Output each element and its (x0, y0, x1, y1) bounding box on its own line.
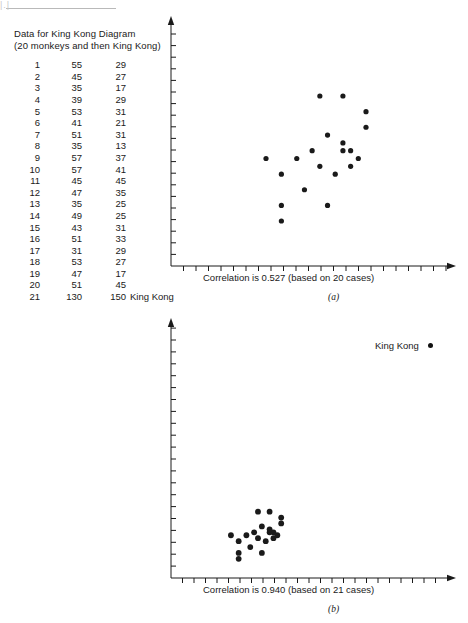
data-point (263, 538, 269, 544)
data-point (263, 156, 268, 161)
data-point (267, 509, 273, 515)
table-cell-idx: 2 (14, 71, 40, 83)
table-cell-idx: 8 (14, 140, 40, 152)
table-cell-idx: 17 (14, 245, 40, 257)
table-cell-idx: 1 (14, 59, 40, 71)
table-cell-x: 51 (40, 129, 82, 141)
scatter-chart-a (160, 14, 468, 276)
data-point (259, 524, 265, 530)
table-cell-y: 150 (82, 291, 126, 303)
data-point (340, 93, 345, 98)
data-point (325, 132, 330, 137)
table-cell-y: 13 (82, 140, 126, 152)
table-cell-y: 25 (82, 198, 126, 210)
scatter-points (228, 509, 284, 562)
chart-b-panel-letter: (b) (328, 604, 339, 614)
data-point (236, 538, 242, 544)
data-point (363, 125, 368, 130)
table-cell-idx: 5 (14, 106, 40, 118)
table-cell-idx: 6 (14, 117, 40, 129)
data-point (267, 526, 273, 532)
data-point (255, 509, 261, 515)
table-cell-y: 31 (82, 106, 126, 118)
table-cell-x: 35 (40, 82, 82, 94)
chart-a-caption: Correlation is 0.527 (based on 20 cases) (203, 272, 374, 284)
table-cell-x: 45 (40, 71, 82, 83)
table-cell-idx: 14 (14, 210, 40, 222)
page-edge-rule (6, 8, 116, 9)
table-cell-y: 21 (82, 117, 126, 129)
table-cell-y: 29 (82, 94, 126, 106)
table-cell-x: 53 (40, 106, 82, 118)
table-cell-idx: 7 (14, 129, 40, 141)
table-cell-x: 57 (40, 164, 82, 176)
data-point (251, 529, 257, 535)
table-cell-y: 33 (82, 233, 126, 245)
table-cell-idx: 13 (14, 198, 40, 210)
table-cell-y: 17 (82, 82, 126, 94)
data-point (363, 109, 368, 114)
table-cell-idx: 12 (14, 187, 40, 199)
data-point (325, 203, 330, 208)
data-point (278, 521, 284, 527)
table-cell-idx: 4 (14, 94, 40, 106)
table-cell-x: 49 (40, 210, 82, 222)
table-cell-idx: 18 (14, 256, 40, 268)
table-cell-idx: 19 (14, 268, 40, 280)
table-row: 205145 (14, 279, 189, 291)
data-point (317, 93, 322, 98)
data-point (279, 218, 284, 223)
table-cell-idx: 16 (14, 233, 40, 245)
table-row: 21130150King Kong (14, 291, 189, 303)
data-point (244, 532, 250, 538)
data-point (294, 156, 299, 161)
data-point (333, 172, 338, 177)
table-cell-x: 57 (40, 152, 82, 164)
table-cell-y: 17 (82, 268, 126, 280)
table-cell-x: 35 (40, 198, 82, 210)
data-point (348, 164, 353, 169)
table-cell-idx: 9 (14, 152, 40, 164)
table-cell-x: 43 (40, 222, 82, 234)
data-point (317, 164, 322, 169)
table-cell-y: 25 (82, 210, 126, 222)
table-cell-idx: 15 (14, 222, 40, 234)
table-cell-x: 130 (40, 291, 82, 303)
data-point (255, 535, 261, 541)
table-cell-x: 31 (40, 245, 82, 257)
table-cell-x: 41 (40, 117, 82, 129)
table-cell-x: 55 (40, 59, 82, 71)
data-point (348, 148, 353, 153)
data-point (228, 532, 234, 538)
table-cell-idx: 20 (14, 279, 40, 291)
table-cell-y: 29 (82, 59, 126, 71)
data-point (302, 187, 307, 192)
table-cell-idx: 11 (14, 175, 40, 187)
table-cell-y: 31 (82, 129, 126, 141)
table-cell-y: 37 (82, 152, 126, 164)
data-point (236, 550, 242, 556)
table-cell-x: 47 (40, 268, 82, 280)
data-point (247, 544, 253, 550)
table-cell-x: 39 (40, 94, 82, 106)
table-cell-x: 51 (40, 279, 82, 291)
data-point (279, 203, 284, 208)
table-cell-y: 45 (82, 279, 126, 291)
data-point (279, 172, 284, 177)
king-kong-point-marker (428, 343, 433, 348)
chart-b-caption: Correlation is 0.940 (based on 21 cases) (203, 584, 374, 596)
data-point (310, 148, 315, 153)
table-cell-x: 51 (40, 233, 82, 245)
scatter-points (263, 93, 368, 223)
data-point (340, 148, 345, 153)
table-cell-x: 45 (40, 175, 82, 187)
table-cell-y: 35 (82, 187, 126, 199)
table-cell-y: 41 (82, 164, 126, 176)
table-cell-idx: 21 (14, 291, 40, 303)
table-cell-y: 27 (82, 256, 126, 268)
scatter-chart-b (160, 318, 468, 590)
data-point (278, 515, 284, 521)
king-kong-annotation: King Kong (375, 340, 419, 351)
table-cell-y: 31 (82, 222, 126, 234)
page-corner-mark: |.| (0, 0, 14, 10)
